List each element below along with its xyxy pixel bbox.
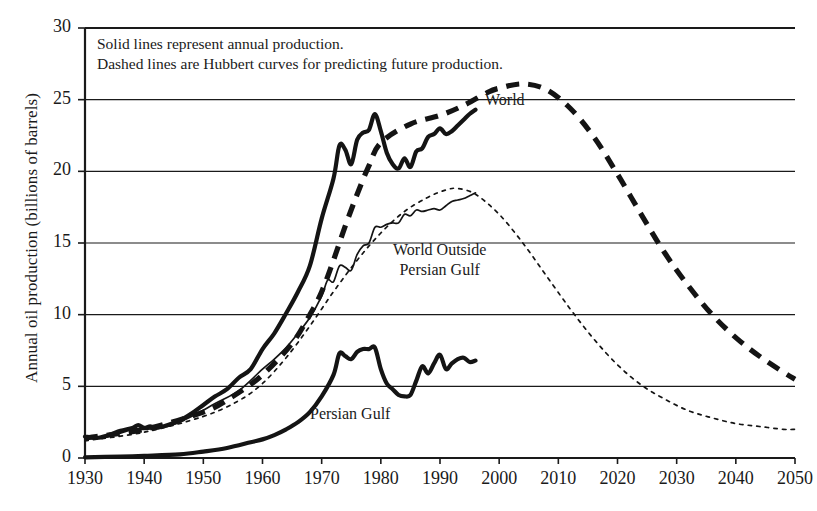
y-tick-label: 20: [27, 159, 71, 180]
chart-annotation-2: Dashed lines are Hubbert curves for pred…: [97, 54, 503, 75]
series-line-world-outside-persian-gulf: [85, 193, 476, 438]
x-tick-label: 2050: [765, 468, 817, 489]
x-tick-label: 2030: [647, 468, 707, 489]
x-tick-label: 2020: [588, 468, 648, 489]
x-tick-label: 2010: [528, 468, 588, 489]
series-label-world-outside-persian-gulf: World Outside Persian Gulf: [393, 240, 486, 279]
series-label-persian-gulf: Persian Gulf: [310, 404, 390, 424]
series-line-persian-gulf: [85, 346, 476, 457]
y-tick-label: 15: [27, 231, 71, 252]
x-tick-label: 1940: [114, 468, 174, 489]
x-tick-label: 2000: [469, 468, 529, 489]
y-tick-label: 10: [27, 303, 71, 324]
y-tick-label: 0: [27, 446, 71, 467]
x-tick-label: 2040: [706, 468, 766, 489]
y-tick-label: 5: [27, 374, 71, 395]
y-tick-label: 30: [27, 16, 71, 37]
series-label-world: World: [485, 90, 525, 110]
x-tick-label: 1970: [292, 468, 352, 489]
x-tick-label: 1980: [351, 468, 411, 489]
x-tick-label: 1930: [55, 468, 115, 489]
x-tick-label: 1990: [410, 468, 470, 489]
chart-annotation-1: Solid lines represent annual production.: [97, 34, 344, 55]
x-tick-label: 1960: [233, 468, 293, 489]
x-tick-label: 1950: [173, 468, 233, 489]
y-tick-label: 25: [27, 88, 71, 109]
